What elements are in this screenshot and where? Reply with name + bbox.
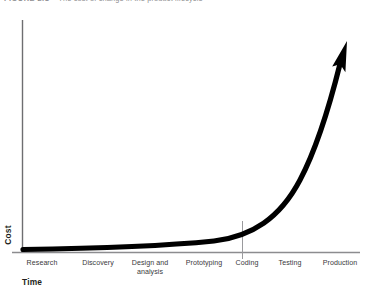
x-axis-tick-labels: Research Discovery Design and analysis P… [0,259,368,281]
phase-label-design-and-analysis: Design and analysis [132,259,168,276]
phase-label-discovery: Discovery [82,259,114,268]
chart-plot-area [0,0,368,295]
phase-label-coding: Coding [236,259,259,268]
phase-label-prototyping: Prototyping [186,259,222,268]
phase-label-testing: Testing [279,259,302,268]
y-axis-title: Cost [2,218,14,252]
phase-label-production: Production [323,259,357,268]
figure-container: FIGURE 2.1The cost of change in the prod… [0,0,368,295]
cost-of-change-curve [23,64,340,250]
phase-label-research: Research [27,259,58,268]
y-axis-title-text: Cost [3,225,13,244]
